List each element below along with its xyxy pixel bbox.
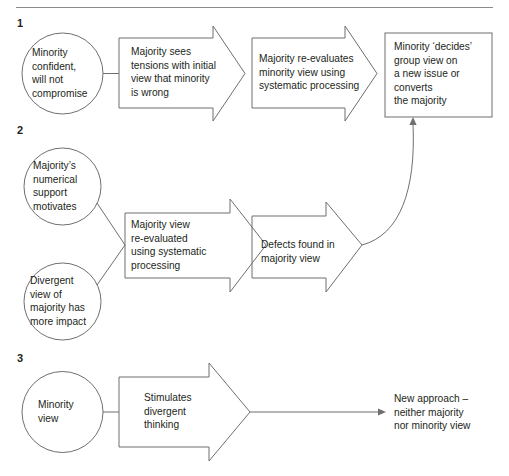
figure-canvas: 1 2 3 Minority confident, will not compr… xyxy=(0,0,509,476)
section-number-1: 1 xyxy=(17,17,23,29)
majority-reevaluates-arrow-label: Majority re-evaluates minority view usin… xyxy=(259,52,379,93)
minority-confident-circle-label: Minority confident, will not compromise xyxy=(32,46,102,100)
minority-decides-box-label: Minority ‘decides’ group view on a new i… xyxy=(394,40,494,108)
section-number-3: 3 xyxy=(17,352,23,364)
majority-numerical-support-circle-label: Majority’s numerical support motivates xyxy=(33,159,103,213)
minority-view-circle-label: Minority view xyxy=(38,398,98,425)
new-approach-box-label: New approach – neither majority nor mino… xyxy=(394,392,490,433)
section-number-2: 2 xyxy=(17,124,23,136)
majority-sees-tensions-arrow-label: Majority sees tensions with initial view… xyxy=(131,45,231,99)
new-approach-arrowhead xyxy=(378,408,386,415)
majority-view-reevaluated-arrow-label: Majority view re-evaluated using systema… xyxy=(131,218,231,272)
feedback-curve xyxy=(362,124,413,245)
stimulates-divergent-thinking-arrow-label: Stimulates divergent thinking xyxy=(144,391,224,432)
divergent-view-circle-label: Divergent view of majority has more impa… xyxy=(30,274,104,328)
feedback-arrowhead xyxy=(409,117,416,125)
defects-found-arrow-label: Defects found in majority view xyxy=(261,238,351,265)
